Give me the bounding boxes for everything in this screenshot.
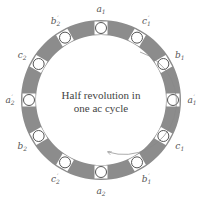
slot-conductor <box>96 23 107 34</box>
slot-conductor <box>96 167 107 178</box>
slot-label: a2′ <box>5 93 14 106</box>
slot-conductor <box>24 95 35 106</box>
slot-conductor <box>60 157 71 168</box>
slot-label: c2′ <box>51 172 60 185</box>
center-text-line2: one ac cycle <box>74 102 128 114</box>
slot-label: b1′ <box>142 172 152 185</box>
slot-conductor <box>132 32 143 43</box>
slot-conductor <box>158 59 169 70</box>
slot-label: c1 <box>175 141 184 152</box>
slot-label: c2 <box>18 50 27 61</box>
slot-label: b2′ <box>51 14 61 27</box>
slot-conductor <box>33 59 44 70</box>
slot-label: a2 <box>96 186 105 197</box>
slot-label: a1′ <box>187 93 196 106</box>
slot-label: b1 <box>175 50 185 61</box>
slot-label: b2 <box>17 141 27 152</box>
stator-diagram: a1c1′b1a1′c1b1′a2c2′b2a2′c2b2′ Half revo… <box>0 0 202 203</box>
slot-conductor <box>60 32 71 43</box>
slot-conductor <box>33 131 44 142</box>
center-text-line1: Half revolution in <box>62 89 141 101</box>
slot-label: c1′ <box>142 14 151 27</box>
slot-conductor <box>132 157 143 168</box>
slot-label: a1 <box>96 4 105 15</box>
